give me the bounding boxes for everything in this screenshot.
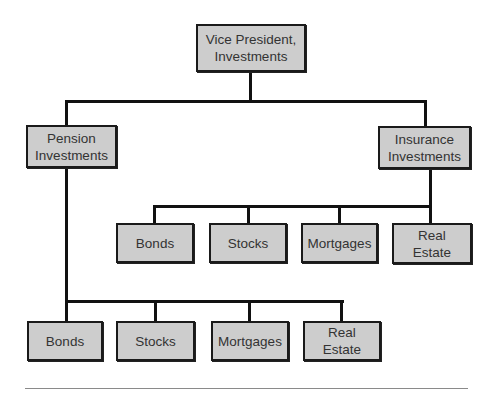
node-insurance-stocks: Stocks (209, 223, 287, 263)
connector-pen-bonds (65, 300, 68, 322)
connector-pension-bus (65, 300, 344, 303)
connector-to-insurance (424, 100, 427, 127)
connector-pension-down (65, 166, 68, 303)
node-insurance-bonds: Bonds (116, 223, 194, 263)
connector-to-pension (65, 100, 68, 126)
connector-ins-bonds (153, 205, 156, 224)
connector-ins-mortgages (338, 205, 341, 224)
node-insurance-investments: Insurance Investments (378, 126, 471, 169)
connector-pen-mortgages (248, 300, 251, 322)
connector-insurance-down (429, 167, 432, 208)
node-vice-president: Vice President, Investments (196, 24, 306, 72)
connector-ins-realestate (429, 205, 432, 224)
node-pension-bonds: Bonds (27, 321, 103, 361)
connector-insurance-bus (153, 205, 432, 208)
connector-ins-stocks (247, 205, 250, 224)
connector-division-bus (65, 100, 427, 103)
connector-pen-stocks (154, 300, 157, 322)
connector-root-down (249, 71, 252, 103)
node-pension-real-estate: Real Estate (303, 321, 381, 361)
node-insurance-mortgages: Mortgages (301, 223, 378, 263)
bottom-rule (25, 388, 468, 389)
node-pension-investments: Pension Investments (26, 125, 117, 168)
node-insurance-real-estate: Real Estate (392, 223, 472, 264)
node-pension-stocks: Stocks (116, 321, 195, 361)
connector-pen-realestate (340, 300, 343, 322)
node-pension-mortgages: Mortgages (211, 321, 289, 361)
